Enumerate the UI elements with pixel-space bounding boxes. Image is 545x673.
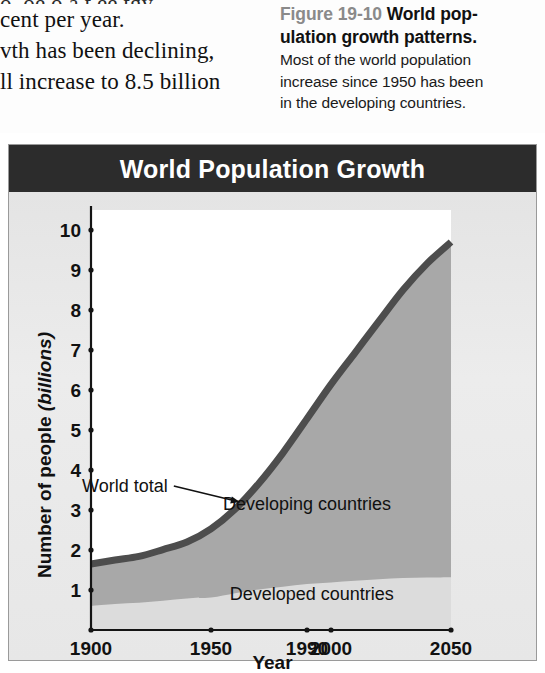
y-tick-mark	[88, 267, 93, 272]
x-axis-title: Year	[9, 652, 536, 673]
figure-number: Figure 19-10	[280, 4, 382, 24]
figure-caption: Figure 19-10 World pop- ulation growth p…	[280, 3, 545, 114]
caption-body-line: increase since 1950 has been	[280, 71, 545, 93]
annotation-world-total-label: World total	[82, 476, 168, 496]
chart-header-bar: World Population Growth	[9, 145, 536, 192]
y-tick-mark	[88, 347, 93, 352]
y-tick-mark	[88, 507, 93, 512]
x-tick-mark	[328, 627, 333, 632]
caption-heading-line1: Figure 19-10 World pop-	[280, 3, 545, 26]
y-tick-mark	[88, 547, 93, 552]
body-text-column: o, oe o.a.t ee.tgy cent per year. vth ha…	[0, 0, 272, 97]
annotation-developed-label: Developed countries	[230, 584, 394, 604]
x-tick-mark	[208, 627, 213, 632]
body-line: cent per year.	[0, 4, 272, 35]
annotation-developing-label: Developing countries	[223, 494, 391, 514]
y-tick-mark	[88, 427, 93, 432]
chart-body: Number of people (billions) 12345678910 …	[9, 192, 536, 660]
caption-body-line: Most of the world population	[280, 49, 545, 71]
body-line: ll increase to 8.5 billion	[0, 66, 272, 97]
body-line: vth has been declining,	[0, 35, 272, 66]
x-tick-mark	[304, 627, 309, 632]
chart-title: World Population Growth	[9, 155, 536, 184]
y-tick-mark	[88, 227, 93, 232]
page-text-band: o, oe o.a.t ee.tgy cent per year. vth ha…	[0, 0, 545, 133]
caption-title-part2: ulation growth patterns.	[280, 26, 545, 49]
figure-card: World Population Growth Number of people…	[8, 144, 537, 661]
chart-plot-area: World total Developing countries Develop…	[9, 192, 536, 660]
x-tick-mark	[448, 627, 453, 632]
y-tick-mark	[88, 587, 93, 592]
y-tick-mark	[88, 467, 93, 472]
caption-title-part1: World pop-	[387, 4, 478, 24]
caption-body-line: in the developing countries.	[280, 92, 545, 114]
y-tick-mark	[88, 387, 93, 392]
y-tick-mark	[88, 307, 93, 312]
x-tick-mark	[88, 627, 93, 632]
